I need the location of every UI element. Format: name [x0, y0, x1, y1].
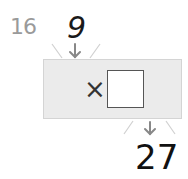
- output-arrow-icon: [145, 122, 155, 134]
- input-value: 9: [67, 10, 86, 45]
- multiply-symbol: ×: [84, 74, 106, 104]
- answer-blank-box[interactable]: [107, 70, 144, 108]
- input-arrow-icon: [70, 44, 80, 57]
- question-number: 16: [10, 14, 36, 39]
- output-value: 27: [135, 137, 178, 177]
